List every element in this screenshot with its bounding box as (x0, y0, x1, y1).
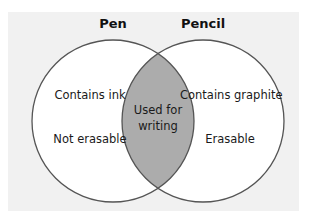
overlap-label-line2: writing (133, 119, 183, 133)
pen-item-contains-ink: Contains ink (40, 88, 140, 102)
pen-item-not-erasable: Not erasable (40, 132, 140, 146)
pen-title: Pen (88, 16, 138, 31)
pencil-title: Pencil (173, 16, 233, 31)
pencil-item-erasable: Erasable (180, 132, 280, 146)
pencil-item-contains-graphite: Contains graphite (180, 88, 280, 102)
overlap-label-line1: Used for (133, 103, 183, 117)
